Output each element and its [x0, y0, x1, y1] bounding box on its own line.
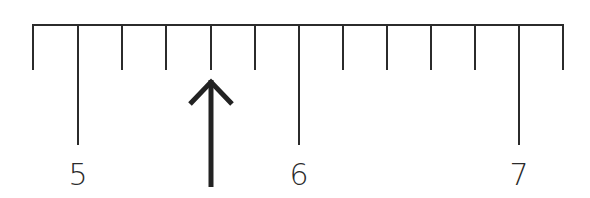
- major-label-7: 7: [509, 160, 528, 190]
- arrow-up-icon: [190, 80, 232, 187]
- major-label-6: 6: [289, 160, 308, 190]
- ruler-ticks: [33, 25, 563, 145]
- major-label-5: 5: [68, 160, 87, 190]
